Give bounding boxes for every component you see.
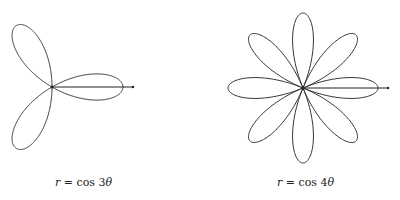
- equation-label-cos3theta: r = cos 3θ: [55, 176, 112, 189]
- axis-arrow-tip-right: [387, 87, 389, 89]
- label-expression: = cos 4: [282, 176, 327, 189]
- pole-dot-left: [51, 86, 54, 89]
- label-expression: = cos 3: [60, 176, 105, 189]
- equation-label-cos4theta: r = cos 4θ: [277, 176, 334, 189]
- label-theta: θ: [105, 176, 112, 189]
- axis-arrow-tip-left: [132, 86, 134, 88]
- label-theta: θ: [327, 176, 334, 189]
- polar-roses-diagram: [0, 0, 400, 200]
- pole-dot-right: [302, 87, 305, 90]
